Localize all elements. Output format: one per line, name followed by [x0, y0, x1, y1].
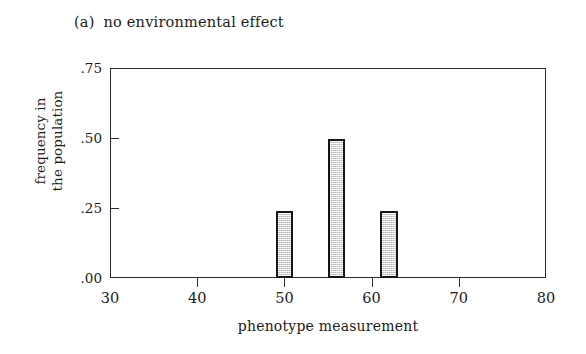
bar	[328, 139, 345, 278]
y-axis-tick-label: .50	[60, 130, 102, 146]
y-axis-tick-label: .00	[60, 270, 102, 286]
x-axis-tick-label: 70	[437, 290, 481, 306]
x-axis-tick	[197, 278, 198, 287]
x-axis-title: phenotype measurement	[110, 318, 546, 334]
x-axis-tick-label: 40	[175, 290, 219, 306]
x-axis-tick-label: 30	[88, 290, 132, 306]
figure-caption: (a)no environmental effect	[74, 14, 284, 30]
y-axis-title-line-2: the population	[49, 43, 66, 239]
y-axis-tick	[110, 138, 119, 139]
x-axis-tick	[284, 278, 285, 287]
y-axis-tick-label: .75	[60, 60, 102, 76]
bar	[276, 211, 293, 278]
x-axis-tick	[372, 278, 373, 287]
figure-index-label: (a)	[74, 14, 95, 30]
y-axis-title-line-1: frequency in	[32, 43, 49, 239]
y-axis-tick-label: .25	[60, 200, 102, 216]
x-axis-tick	[459, 278, 460, 287]
figure-caption-text: no environmental effect	[104, 14, 284, 30]
x-axis-tick-label: 80	[524, 290, 568, 306]
bar	[380, 211, 397, 278]
plot-area	[110, 68, 546, 278]
y-axis-title: frequency in the population	[32, 43, 66, 239]
x-axis-tick-label: 60	[350, 290, 394, 306]
y-axis-tick	[110, 208, 119, 209]
x-axis-tick-label: 50	[262, 290, 306, 306]
